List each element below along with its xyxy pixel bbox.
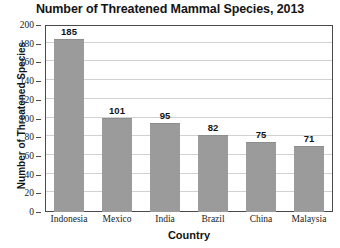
bar-value-label: 185 <box>54 26 84 37</box>
bar-chart-figure: Number of Threatened Mammal Species, 201… <box>0 0 340 248</box>
x-axis-tick-labels: IndonesiaMexicoIndiaBrazilChinaMalaysia <box>45 214 333 228</box>
bar-value-label: 82 <box>198 122 228 133</box>
y-tick-mark <box>36 137 41 138</box>
y-tick-mark <box>36 81 41 82</box>
y-tick-mark <box>36 25 41 26</box>
y-tick-label: 80 <box>25 132 35 142</box>
y-tick-mark <box>36 62 41 63</box>
bar-group: 75 <box>246 25 276 212</box>
bar-group: 95 <box>150 25 180 212</box>
y-tick-mark <box>36 100 41 101</box>
bar[interactable] <box>294 146 324 212</box>
y-tick-label: 140 <box>20 76 34 86</box>
bar-series: 18510195827571 <box>45 25 333 212</box>
bar[interactable] <box>246 142 276 212</box>
x-tick-label: India <box>141 214 189 224</box>
y-tick-mark <box>36 175 41 176</box>
bar-value-label: 75 <box>246 129 276 140</box>
x-tick-label: Malaysia <box>285 214 333 224</box>
bar[interactable] <box>150 123 180 212</box>
x-axis-title: Country <box>45 229 333 241</box>
bar[interactable] <box>54 39 84 212</box>
y-tick-label: 20 <box>25 188 35 198</box>
y-axis-tick-labels: 020406080100120140160180200 <box>0 25 41 212</box>
y-tick-label: 0 <box>29 207 34 217</box>
bar[interactable] <box>198 135 228 212</box>
chart-title: Number of Threatened Mammal Species, 201… <box>0 2 340 16</box>
bar-group: 82 <box>198 25 228 212</box>
bar-value-label: 71 <box>294 133 324 144</box>
y-tick-label: 60 <box>25 151 35 161</box>
y-tick-label: 40 <box>25 170 35 180</box>
y-tick-mark <box>36 212 41 213</box>
bar[interactable] <box>102 118 132 212</box>
y-tick-label: 100 <box>20 114 34 124</box>
bar-value-label: 95 <box>150 110 180 121</box>
x-tick-label: Brazil <box>189 214 237 224</box>
y-tick-mark <box>36 44 41 45</box>
y-tick-label: 200 <box>20 20 34 30</box>
bar-group: 101 <box>102 25 132 212</box>
x-tick-label: China <box>237 214 285 224</box>
bar-group: 185 <box>54 25 84 212</box>
x-tick-label: Indonesia <box>45 214 93 224</box>
y-tick-mark <box>36 156 41 157</box>
y-tick-label: 120 <box>20 95 34 105</box>
y-tick-mark <box>36 193 41 194</box>
bar-group: 71 <box>294 25 324 212</box>
y-tick-label: 160 <box>20 57 34 67</box>
y-tick-mark <box>36 119 41 120</box>
x-tick-label: Mexico <box>93 214 141 224</box>
bar-value-label: 101 <box>102 105 132 116</box>
y-tick-label: 180 <box>20 39 34 49</box>
